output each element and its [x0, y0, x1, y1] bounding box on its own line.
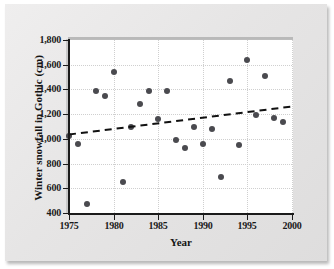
y-tick-label: 600: [47, 182, 61, 193]
gridline-horizontal: [69, 188, 292, 190]
x-tick-label: 1995: [237, 220, 256, 231]
y-tick-mark: [63, 188, 69, 189]
data-point: [128, 124, 134, 130]
gridline-vertical: [292, 40, 294, 213]
y-tick-mark: [63, 40, 69, 41]
x-tick-label: 1980: [104, 220, 123, 231]
data-point: [227, 78, 233, 84]
data-point: [218, 174, 224, 180]
data-point: [182, 145, 188, 151]
x-axis-line: [68, 213, 294, 215]
data-point: [75, 141, 81, 147]
scatter-chart: 1,8001,6001,4001,2001,000800600400 19751…: [0, 0, 334, 269]
data-point: [191, 124, 197, 130]
figure-card: 1,8001,6001,4001,2001,000800600400 19751…: [0, 0, 334, 269]
data-point: [93, 88, 99, 94]
x-tick-label: 2000: [282, 220, 301, 231]
y-axis-title: Winter snowfall in Gothic (cm): [32, 38, 44, 218]
data-point: [200, 141, 206, 147]
y-tick-mark: [63, 89, 69, 90]
y-tick-mark: [63, 65, 69, 66]
data-point: [280, 119, 286, 125]
y-tick-mark: [63, 213, 69, 214]
x-tick-label: 1985: [148, 220, 167, 231]
gridline-horizontal: [69, 65, 292, 67]
x-tick-label: 1990: [193, 220, 212, 231]
data-point: [164, 88, 170, 94]
data-point: [262, 73, 268, 79]
gridline-horizontal: [69, 89, 292, 91]
data-point: [146, 88, 152, 94]
data-point: [236, 142, 242, 148]
y-tick-label: 800: [47, 158, 61, 169]
y-tick-mark: [63, 139, 69, 140]
x-tick-label: 1975: [59, 220, 78, 231]
data-point: [111, 69, 117, 75]
data-point: [209, 126, 215, 132]
y-tick-mark: [63, 114, 69, 115]
data-point: [102, 93, 108, 99]
data-point: [120, 179, 126, 185]
y-tick-label: 400: [47, 207, 61, 218]
y-tick-mark: [63, 164, 69, 165]
x-axis-title: Year: [68, 236, 294, 248]
gridline-horizontal: [69, 164, 292, 166]
data-point: [271, 115, 277, 121]
gridline-horizontal: [69, 139, 292, 141]
